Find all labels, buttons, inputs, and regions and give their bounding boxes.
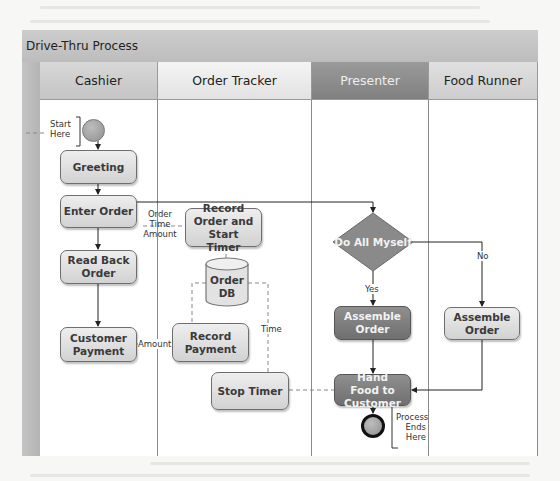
node-hand-food-to-customer[interactable]: Hand Food to Customer [334, 374, 411, 406]
decision-do-all-myself[interactable]: Do All Myself [333, 236, 413, 248]
edge-label-no: No [477, 251, 489, 261]
node-customer-payment[interactable]: Customer Payment [60, 327, 137, 362]
edge-label-yes: Yes [365, 284, 379, 294]
edge-label-amount: Amount [138, 339, 171, 349]
start-here-annotation: Start Here [50, 119, 76, 139]
edge-label-order-time-amount: Order Time Amount [143, 209, 177, 239]
node-assemble-order-food-runner[interactable]: Assemble Order [444, 307, 520, 340]
edge-label-time: Time [261, 324, 282, 334]
node-stop-timer[interactable]: Stop Timer [211, 372, 289, 410]
node-order-db[interactable]: Order DB [206, 274, 248, 300]
end-node-circle[interactable] [361, 414, 385, 438]
start-node-circle[interactable] [82, 119, 105, 142]
node-assemble-order-presenter[interactable]: Assemble Order [334, 306, 411, 340]
node-record-payment[interactable]: Record Payment [172, 323, 249, 362]
node-read-back-order[interactable]: Read Back Order [60, 250, 137, 284]
node-enter-order[interactable]: Enter Order [60, 195, 137, 228]
node-greeting[interactable]: Greeting [60, 150, 137, 184]
node-record-order-start-timer[interactable]: Record Order and Start Timer [185, 208, 262, 247]
process-ends-here-annotation: Process Ends Here [396, 412, 426, 442]
